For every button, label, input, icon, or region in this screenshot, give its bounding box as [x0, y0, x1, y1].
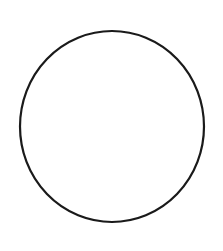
background	[0, 0, 223, 251]
diagram-canvas	[0, 0, 223, 251]
